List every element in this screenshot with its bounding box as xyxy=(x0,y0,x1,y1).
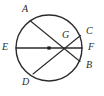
point-label-d: D xyxy=(22,77,29,87)
center-point xyxy=(47,46,50,49)
geometry-figure: A C G F E B D xyxy=(0,0,104,96)
point-label-a: A xyxy=(22,4,28,14)
point-label-c: C xyxy=(86,26,93,36)
chord-cd xyxy=(33,36,81,75)
point-label-b: B xyxy=(86,60,92,70)
point-label-e: E xyxy=(2,42,8,52)
point-label-f: F xyxy=(88,42,94,52)
point-label-g: G xyxy=(62,30,69,40)
